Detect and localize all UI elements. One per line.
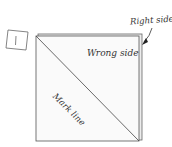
wrong-side-label: Wrong side — [87, 48, 139, 58]
step-box — [6, 30, 28, 50]
step-number: 1 — [14, 34, 15, 35]
arrow-icon — [142, 28, 152, 45]
